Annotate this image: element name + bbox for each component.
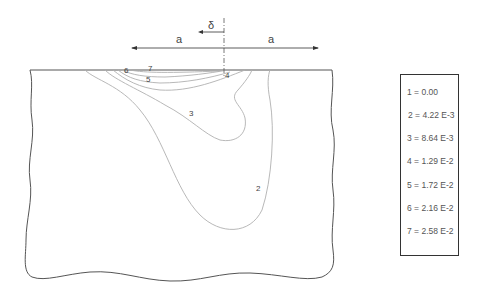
a-right-label: a: [268, 33, 275, 45]
legend-item-2: 2 = 4.22 E-3: [408, 110, 455, 120]
delta-label: δ: [208, 19, 214, 31]
contour-line-3: [105, 70, 252, 141]
contour-label-5: 5: [146, 75, 151, 84]
legend-box: 1 = 0.00 2 = 4.22 E-3 3 = 8.64 E-3 4 = 1…: [400, 74, 459, 256]
a-arrowhead-right-icon: [313, 46, 319, 50]
contour-line-2: [85, 70, 272, 229]
delta-arrowhead-icon: [198, 30, 203, 34]
body-outline: [25, 70, 334, 281]
legend-item-5: 5 = 1.72 E-2: [407, 180, 454, 190]
a-left-label: a: [176, 33, 183, 45]
contour-label-7: 7: [148, 64, 153, 73]
legend-item-3: 3 = 8.64 E-3: [407, 133, 454, 143]
contour-label-6: 6: [124, 66, 129, 75]
contour-label-2: 2: [256, 184, 261, 193]
a-arrowhead-left-icon: [131, 46, 137, 50]
contour-label-3: 3: [189, 109, 194, 118]
contour-label-4: 4: [225, 71, 230, 80]
legend-item-6: 6 = 2.16 E-2: [407, 203, 454, 213]
legend-item-4: 4 = 1.29 E-2: [407, 156, 454, 166]
legend-item-7: 7 = 2.58 E-2: [407, 226, 454, 236]
legend-item-1: 1 = 0.00: [407, 87, 438, 97]
